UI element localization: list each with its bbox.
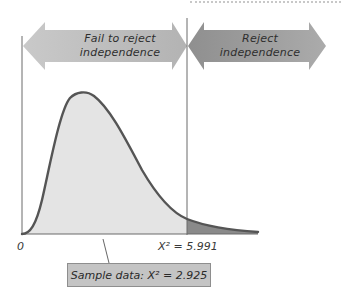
- critical-value-label: X² = 5.991: [158, 240, 218, 253]
- reject-line2: independence: [210, 46, 310, 60]
- sample-data-text: Sample data: X² = 2.925: [71, 269, 207, 282]
- sample-pointer-line: [103, 239, 109, 263]
- reject-label: Reject independence: [210, 32, 310, 60]
- fail-to-reject-line2: independence: [60, 46, 180, 60]
- origin-label: 0: [17, 240, 24, 253]
- fail-to-reject-label: Fail to reject independence: [60, 32, 180, 60]
- sample-data-callout: Sample data: X² = 2.925: [67, 263, 211, 287]
- fail-to-reject-line1: Fail to reject: [60, 32, 180, 46]
- reject-line1: Reject: [210, 32, 310, 46]
- fail-to-reject-area: [22, 92, 187, 234]
